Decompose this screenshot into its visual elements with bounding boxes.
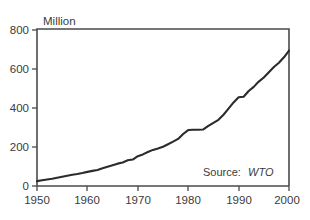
plot-frame (37, 29, 289, 186)
y-tick-label-400: 400 (10, 102, 29, 114)
x-tick-label-1990: 1990 (226, 194, 252, 206)
source-prefix: Source: (203, 166, 241, 178)
chart-canvas: 0 200 400 600 800 1950 1960 1970 1980 19… (0, 0, 310, 220)
x-tick-label-1970: 1970 (125, 194, 151, 206)
x-tick-label-1980: 1980 (175, 194, 201, 206)
x-tick-label-1960: 1960 (74, 194, 100, 206)
source-organization: WTO (248, 166, 274, 178)
x-tick-label-2000: 2000 (274, 194, 300, 206)
y-tick-labels: 0 200 400 600 800 (10, 24, 29, 192)
source-note: Source: WTO (203, 166, 274, 178)
y-axis-unit-label: Million (43, 15, 76, 27)
y-tick-label-0: 0 (23, 180, 29, 192)
x-tick-labels: 1950 1960 1970 1980 1990 2000 (24, 194, 300, 206)
y-tick-label-800: 800 (10, 24, 29, 36)
series-line-international-tourist-arrivals (37, 51, 289, 182)
y-tick-label-600: 600 (10, 63, 29, 75)
x-tick-label-1950: 1950 (24, 194, 50, 206)
tourism-arrivals-chart: 0 200 400 600 800 1950 1960 1970 1980 19… (0, 0, 310, 220)
y-tick-label-200: 200 (10, 141, 29, 153)
